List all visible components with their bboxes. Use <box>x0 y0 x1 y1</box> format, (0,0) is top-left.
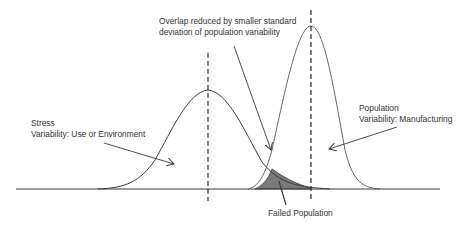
stress-label-variability: Variability: Use or Environment <box>31 129 145 140</box>
population-label-title: Population <box>359 103 399 114</box>
overlap-label-line1: Overlap reduced by smaller standard <box>159 16 296 27</box>
stress-label-title: Stress <box>31 118 55 129</box>
interference-diagram: Overlap reduced by smaller standard devi… <box>0 0 461 225</box>
population-arrow <box>329 127 397 149</box>
overlap-arrow <box>234 46 271 150</box>
population-label-variability: Variability: Manufacturing <box>359 114 452 125</box>
overlap-label-line2: deviation of population variability <box>159 27 280 38</box>
stress-arrow <box>104 143 174 164</box>
failed-population-label: Failed Population <box>268 208 333 219</box>
